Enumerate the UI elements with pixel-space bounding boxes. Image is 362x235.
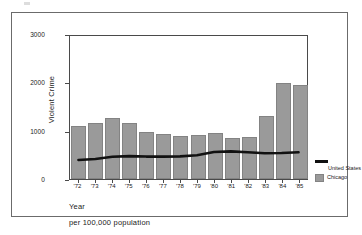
chart-figure: 0100020003000 Violent Crime '72'73'74'75…	[0, 0, 362, 235]
x-tick-mark-74	[112, 180, 113, 183]
y-tick-label-3000: 3000	[5, 31, 45, 38]
y-axis-label: Violent Crime	[47, 55, 56, 145]
line-series-united-states	[70, 36, 307, 179]
x-tick-mark-78	[180, 180, 181, 183]
y-tick-label-1000: 1000	[5, 128, 45, 135]
x-tick-mark-72	[78, 180, 79, 183]
x-tick-mark-73	[95, 180, 96, 183]
x-tick-mark-75	[129, 180, 130, 183]
x-tick-mark-79	[197, 180, 198, 183]
x-tick-mark-83	[265, 180, 266, 183]
legend-label-united-states: United States	[328, 165, 361, 171]
figure-frame: 0100020003000 Violent Crime '72'73'74'75…	[11, 12, 348, 217]
x-tick-mark-85	[299, 180, 300, 183]
image-artifact-speck	[24, 2, 30, 5]
x-tick-mark-80	[214, 180, 215, 183]
y-tick-label-0: 0	[5, 176, 45, 183]
chart-legend: United States Chicago	[315, 156, 362, 188]
legend-line-swatch-icon	[315, 160, 328, 163]
chart-footnote: per 100,000 population	[69, 218, 150, 227]
y-tick-mark-0	[65, 180, 69, 181]
x-tick-mark-84	[282, 180, 283, 183]
legend-label-chicago: Chicago	[327, 174, 347, 180]
x-tick-mark-81	[231, 180, 232, 183]
x-tick-mark-82	[248, 180, 249, 183]
legend-item-chicago: Chicago	[315, 172, 362, 188]
x-tick-mark-76	[146, 180, 147, 183]
y-tick-label-2000: 2000	[5, 79, 45, 86]
legend-item-united-states: United States	[315, 156, 362, 172]
plot-area	[69, 35, 308, 180]
x-tick-label-85: '85	[289, 183, 309, 190]
x-tick-mark-77	[163, 180, 164, 183]
x-axis-label: Year	[69, 202, 85, 211]
legend-bar-swatch-icon	[315, 174, 324, 182]
